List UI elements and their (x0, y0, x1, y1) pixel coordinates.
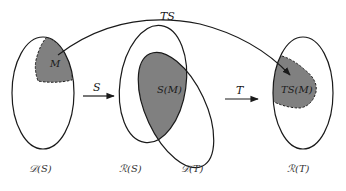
label-t-arrow: T (236, 84, 245, 97)
region-s-m (123, 41, 230, 179)
label-range-s: ℛ(S) (119, 163, 142, 174)
label-ts: TS (160, 10, 175, 23)
domain-s-set (12, 37, 74, 149)
region-ts-m (268, 55, 316, 108)
label-range-t: ℛ(T) (287, 163, 310, 174)
label-m: M (49, 58, 61, 69)
range-s-domain-t-sets (112, 21, 229, 179)
label-s-m: S(M) (157, 84, 182, 95)
label-domain-t: 𝒟(T) (181, 163, 204, 174)
label-domain-s: 𝒟(S) (29, 163, 52, 174)
set-mapping-diagram: TS S T M S(M) TS(M) 𝒟(S) ℛ(S) 𝒟(T) ℛ(T) (0, 0, 346, 191)
label-s-arrow: S (93, 81, 101, 94)
label-ts-m: TS(M) (281, 84, 313, 95)
